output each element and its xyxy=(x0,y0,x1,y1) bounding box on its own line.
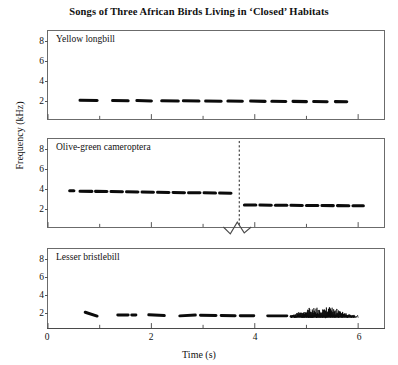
x-axis-line xyxy=(47,328,385,329)
y-tick-6-p3: 6 xyxy=(28,273,44,283)
spectrogram-trace-3 xyxy=(48,249,384,328)
panel-lesser-bristlebill: Lesser bristlebill 8 6 4 2 xyxy=(47,248,385,328)
y-tick-8-p3: 8 xyxy=(28,255,44,265)
y-tick-4-p3: 4 xyxy=(28,291,44,301)
x-tick-6: 6 xyxy=(350,333,368,343)
spectrogram-trace-1 xyxy=(48,31,384,119)
figure-container: Songs of Three African Birds Living in ‘… xyxy=(0,0,398,365)
y-tick-6-p1: 6 xyxy=(28,57,44,67)
panel-yellow-longbill: Yellow longbill 8 6 4 2 xyxy=(47,30,385,120)
trill-burst xyxy=(291,307,358,317)
x-axis-label: Time (s) xyxy=(0,349,398,360)
y-tick-4-p1: 4 xyxy=(28,77,44,87)
x-tick-4: 4 xyxy=(246,333,264,343)
figure-title: Songs of Three African Birds Living in ‘… xyxy=(0,6,398,17)
panel-olive-green-cameroptera: Olive-green cameroptera 8 6 4 2 xyxy=(47,138,385,228)
y-tick-4-p2: 4 xyxy=(28,185,44,195)
y-tick-2-p1: 2 xyxy=(28,97,44,107)
y-tick-6-p2: 6 xyxy=(28,165,44,175)
y-tick-2-p3: 2 xyxy=(28,309,44,319)
x-tick-2: 2 xyxy=(142,333,160,343)
y-axis-label: Frequency (kHz) xyxy=(14,81,25,191)
y-tick-8-p2: 8 xyxy=(28,145,44,155)
y-tick-8-p1: 8 xyxy=(28,37,44,47)
x-tick-0: 0 xyxy=(38,333,56,343)
y-tick-2-p2: 2 xyxy=(28,205,44,215)
spectrogram-trace-2 xyxy=(48,139,384,227)
axis-break-zigzag-icon xyxy=(223,222,251,234)
